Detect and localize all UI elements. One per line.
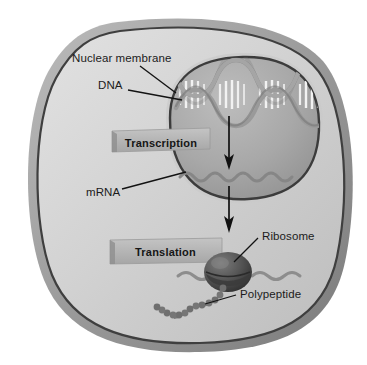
label-ribosome: Ribosome	[262, 230, 315, 243]
label-dna: DNA	[98, 79, 123, 92]
label-mrna: mRNA	[86, 186, 120, 199]
stage-label-translation: Translation	[113, 241, 218, 263]
diagram-canvas: Nuclear membrane DNA mRNA Ribosome Polyp…	[0, 0, 367, 365]
label-nuclear-membrane: Nuclear membrane	[72, 52, 171, 65]
cell-diagram-svg	[0, 0, 367, 365]
stage-label-transcription: Transcription	[115, 133, 207, 153]
label-polypeptide: Polypeptide	[240, 288, 301, 301]
